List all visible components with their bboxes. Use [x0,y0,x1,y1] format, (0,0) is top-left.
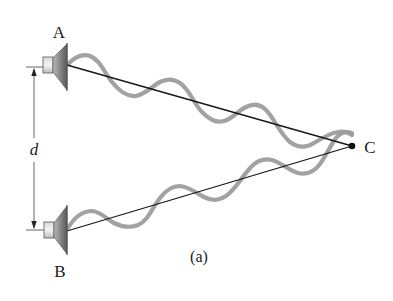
ray-a-to-c [67,65,352,146]
wave-from-a [68,55,352,146]
label-source-b: B [54,262,65,281]
ray-b-to-c [67,146,352,231]
label-source-a: A [53,23,66,42]
figure-caption: (a) [190,248,208,266]
arrow-up-icon [31,68,36,76]
label-separation-d: d [30,140,39,159]
point-c-dot [349,143,356,150]
interference-diagram: A B C d (a) [0,0,393,301]
label-point-c: C [364,138,375,157]
arrow-down-icon [31,221,36,229]
speaker-b-icon [44,205,67,255]
speaker-a-icon [43,43,67,91]
